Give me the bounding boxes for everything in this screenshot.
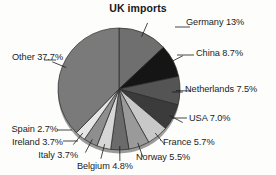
- slice-label-ireland: Ireland 3.7%: [12, 137, 63, 147]
- pie-slices-group: [58, 28, 180, 150]
- slice-label-spain: Spain 2.7%: [12, 124, 59, 134]
- slice-label-italy: Italy 3.7%: [38, 150, 78, 160]
- slice-label-germany: Germany 13%: [186, 17, 244, 27]
- pie-chart-figure: UK imports Germany 13% China 8.7% Nether…: [0, 0, 276, 175]
- slice-label-usa: USA 7.0%: [189, 113, 230, 123]
- slice-label-other: Other 37.7%: [12, 52, 63, 62]
- slice-label-norway: Norway 5.5%: [136, 152, 190, 162]
- slice-label-france: France 5.7%: [163, 137, 215, 147]
- slice-label-netherlands: Netherlands 7.5%: [185, 84, 257, 94]
- slice-label-china: China 8.7%: [196, 48, 243, 58]
- slice-label-belgium: Belgium 4.8%: [77, 161, 133, 171]
